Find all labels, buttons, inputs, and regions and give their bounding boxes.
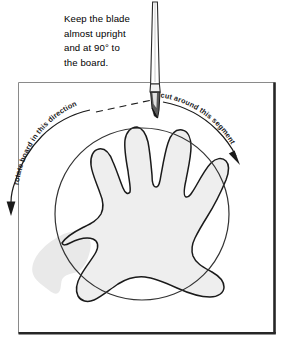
diagram-canvas: Keep the blade almost upright and at 90°… bbox=[0, 0, 286, 346]
craft-knife-icon bbox=[150, 2, 160, 118]
cutting-diagram-illustration: rotate board in this direction cut aroun… bbox=[0, 0, 286, 346]
